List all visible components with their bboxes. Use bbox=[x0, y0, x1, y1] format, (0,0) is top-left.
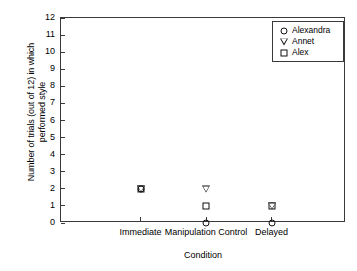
y-tick-mark bbox=[61, 69, 65, 70]
triangle-down-marker-icon bbox=[268, 202, 276, 209]
legend: AlexandraAnnetAlex bbox=[272, 21, 344, 62]
y-tick-label: 2 bbox=[35, 183, 55, 194]
y-tick-mark bbox=[61, 223, 65, 224]
y-tick-mark bbox=[61, 86, 65, 87]
y-tick-label: 1 bbox=[35, 200, 55, 211]
legend-item: Annet bbox=[276, 36, 339, 47]
y-tick-label: 0 bbox=[35, 217, 55, 228]
y-tick-label: 7 bbox=[35, 97, 55, 108]
x-tick-mark bbox=[140, 217, 141, 221]
y-tick-label: 5 bbox=[35, 132, 55, 143]
legend-label: Alexandra bbox=[292, 25, 330, 36]
triangle-down-marker-icon bbox=[202, 185, 210, 192]
x-axis-title: Condition bbox=[60, 250, 346, 260]
y-tick-label: 10 bbox=[35, 46, 55, 57]
legend-label: Annet bbox=[292, 36, 314, 47]
y-tick-mark bbox=[61, 18, 65, 19]
y-tick-label: 8 bbox=[35, 80, 55, 91]
square-marker-icon bbox=[203, 202, 210, 209]
square-marker-icon bbox=[281, 49, 288, 56]
y-tick-mark bbox=[61, 137, 65, 138]
circle-marker-icon bbox=[281, 27, 288, 34]
y-tick-mark bbox=[61, 171, 65, 172]
legend-item: Alex bbox=[276, 47, 339, 58]
y-tick-label: 11 bbox=[35, 29, 55, 40]
y-tick-mark bbox=[61, 103, 65, 104]
y-tick-label: 6 bbox=[35, 115, 55, 126]
y-tick-mark bbox=[61, 52, 65, 53]
y-tick-label: 12 bbox=[35, 12, 55, 23]
circle-marker-icon bbox=[268, 220, 275, 227]
legend-marker bbox=[276, 36, 292, 47]
legend-item: Alexandra bbox=[276, 25, 339, 36]
plot-area: 1211109876543210 ImmediateManipulation C… bbox=[60, 17, 345, 222]
y-tick-label: 9 bbox=[35, 63, 55, 74]
triangle-down-marker-icon bbox=[280, 38, 288, 45]
y-tick-mark bbox=[61, 205, 65, 206]
legend-label: Alex bbox=[292, 47, 309, 58]
x-tick-label: Delayed bbox=[212, 227, 332, 238]
y-tick-label: 4 bbox=[35, 149, 55, 160]
y-tick-mark bbox=[61, 120, 65, 121]
legend-marker bbox=[276, 25, 292, 36]
y-tick-mark bbox=[61, 35, 65, 36]
y-tick-label: 3 bbox=[35, 166, 55, 177]
circle-marker-icon bbox=[203, 220, 210, 227]
y-tick-mark bbox=[61, 154, 65, 155]
legend-marker bbox=[276, 47, 292, 58]
y-tick-mark bbox=[61, 188, 65, 189]
chart-figure: Number of trials (out of 12) in which pe… bbox=[0, 0, 357, 271]
circle-marker-icon bbox=[137, 185, 144, 192]
